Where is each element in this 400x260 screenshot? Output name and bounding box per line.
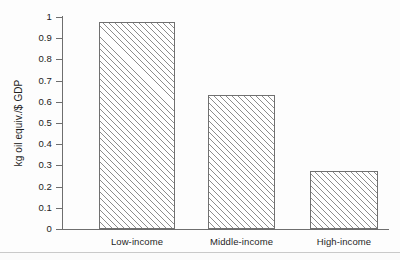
x-axis-label-low-income: Low-income: [99, 236, 175, 247]
y-axis-tick-label: 0.2: [38, 182, 52, 192]
bar-middle-income: [208, 95, 275, 229]
y-axis-tick-label: 0.8: [38, 54, 52, 64]
y-axis-tick-label: 0.6: [38, 97, 52, 107]
y-axis-tick-mark: [56, 123, 62, 124]
bar-chart: kg oil equiv./$ GDP 10.90.80.70.60.50.40…: [0, 0, 400, 260]
x-axis-label-middle-income: Middle-income: [208, 236, 275, 247]
y-axis-tick-label: 0.3: [38, 160, 52, 170]
y-axis-tick-mark: [56, 165, 62, 166]
x-axis-label-high-income: High-income: [310, 236, 378, 247]
y-axis-tick-label: 1: [47, 12, 52, 22]
y-axis-tick-label: 0.4: [38, 139, 52, 149]
y-axis-tick-mark: [56, 17, 62, 18]
bar-high-income: [310, 171, 378, 229]
y-axis-title: kg oil equiv./$ GDP: [14, 63, 24, 183]
scan-tint: [0, 253, 400, 260]
y-axis-tick-mark: [56, 144, 62, 145]
y-axis-tick-mark: [56, 187, 62, 188]
y-axis-tick-mark: [56, 38, 62, 39]
y-axis-tick-mark: [56, 208, 62, 209]
y-axis-tick-mark: [56, 59, 62, 60]
y-axis-tick-label: 0.7: [38, 76, 52, 86]
y-axis-tick-label: 0.1: [38, 203, 52, 213]
scan-edge-line: [0, 252, 400, 253]
plot-area: [63, 17, 388, 229]
y-axis-tick-mark: [56, 81, 62, 82]
y-axis-tick-mark: [56, 102, 62, 103]
y-axis-tick-label: 0.5: [38, 118, 52, 128]
y-axis-tick-mark: [56, 229, 62, 230]
bar-low-income: [99, 22, 175, 229]
y-axis-tick-label: 0.9: [38, 33, 52, 43]
x-axis-line: [62, 229, 389, 230]
y-axis-tick-label: 0: [47, 224, 52, 234]
